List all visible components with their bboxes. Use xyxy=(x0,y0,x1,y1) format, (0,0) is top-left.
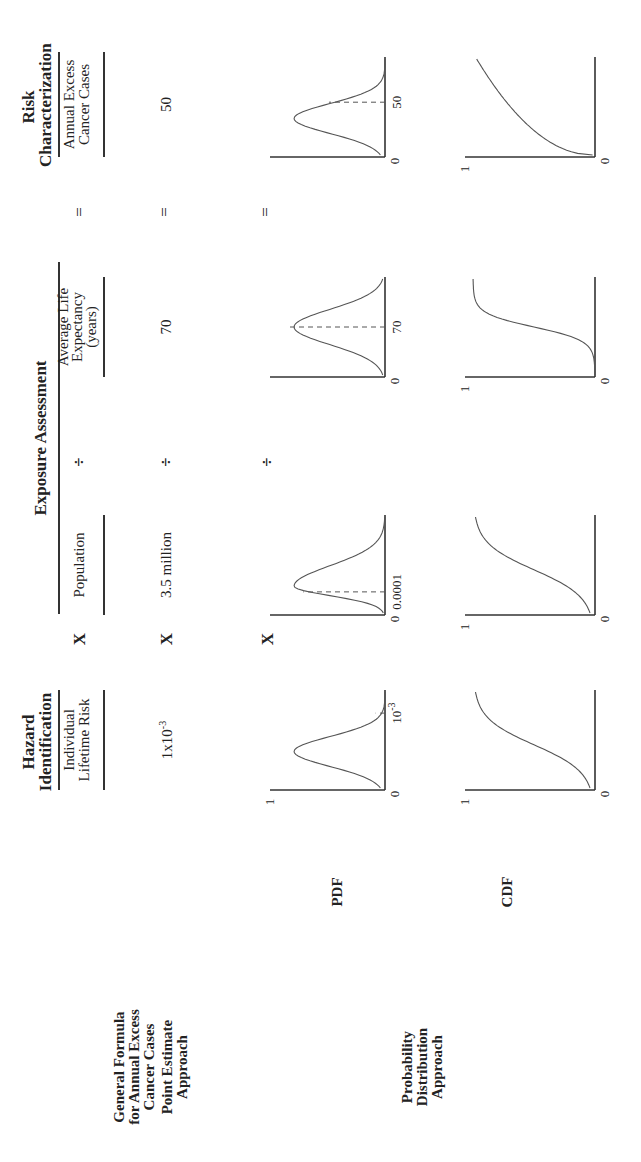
cdf-chart-1-ytick-0: 0 xyxy=(597,791,612,798)
cdf-chart-2-ytick-1: 1 xyxy=(457,624,472,631)
risk-diagram: Hazard Identification Exposure Assessmen… xyxy=(0,0,641,1162)
pdf-chart-2-ytick-0: 0 xyxy=(387,616,402,623)
pdf-chart-1-ytick-0: 0 xyxy=(387,791,402,798)
cdf-chart-4-ytick-1: 1 xyxy=(457,166,472,173)
pdf-chart-1-xtick-label: 10-3 xyxy=(386,702,404,723)
pdf-chart-4-xtick-label: 50 xyxy=(389,96,404,109)
cdf-chart-3-curve xyxy=(473,279,595,375)
cdf-chart-3-ytick-0: 0 xyxy=(597,378,612,385)
pdf-chart-3-ytick-0: 0 xyxy=(387,378,402,385)
cdf-chart-1-curve xyxy=(476,692,591,788)
pdf-chart-2-xtick-label: 0.0001 xyxy=(389,574,404,610)
cdf-chart-4-ytick-0: 0 xyxy=(597,158,612,165)
pdf-chart-1-xtick-exponent: -3 xyxy=(386,702,397,710)
distribution-charts: 0110-300.000107005001010101 xyxy=(0,0,641,1162)
pdf-chart-3-xtick-label: 70 xyxy=(389,321,404,334)
cdf-chart-2-ytick-0: 0 xyxy=(597,616,612,623)
cdf-chart-2-curve xyxy=(476,517,591,613)
pdf-chart-4-ytick-0: 0 xyxy=(387,158,402,165)
pdf-chart-2-curve xyxy=(294,517,385,613)
cdf-chart-4-curve xyxy=(477,59,593,155)
pdf-chart-1-ytick-1: 1 xyxy=(262,799,277,806)
pdf-chart-1-curve xyxy=(294,692,385,788)
cdf-chart-1-ytick-1: 1 xyxy=(457,799,472,806)
cdf-chart-3-ytick-1: 1 xyxy=(457,386,472,393)
pdf-chart-4-curve xyxy=(294,59,385,155)
